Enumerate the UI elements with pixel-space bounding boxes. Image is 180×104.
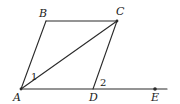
label-c: C <box>116 5 125 18</box>
angle-1-label: 1 <box>31 71 37 82</box>
point-a-dot <box>20 88 23 91</box>
point-c-dot <box>116 20 119 23</box>
parallelogram-diagram: B C A D E 1 2 <box>0 0 180 104</box>
label-a: A <box>12 91 21 104</box>
label-b: B <box>38 7 47 20</box>
angle-2-label: 2 <box>100 77 106 88</box>
label-e: E <box>150 91 159 104</box>
label-d: D <box>88 91 98 104</box>
